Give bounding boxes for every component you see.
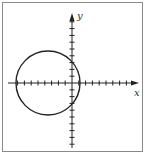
y-axis-label: y — [76, 10, 83, 21]
coordinate-plane: x y — [0, 0, 146, 158]
x-axis-label: x — [134, 87, 140, 98]
y-axis-arrow-icon — [70, 13, 75, 21]
x-axis-arrow-icon — [131, 81, 139, 86]
